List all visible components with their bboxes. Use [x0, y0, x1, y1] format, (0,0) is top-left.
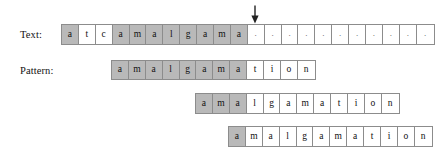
cell-l: l [280, 127, 297, 146]
cell-glyph: . [322, 29, 324, 38]
cell-glyph: l [253, 98, 256, 108]
cell-placeholder: . [366, 25, 383, 44]
cell-glyph: m [134, 29, 141, 39]
cell-glyph: o [286, 65, 291, 75]
pattern-row-2: amalgamation [195, 93, 400, 114]
cell-n: n [382, 94, 399, 113]
cell-glyph: g [185, 65, 190, 75]
cell-glyph: n [388, 98, 393, 108]
cell-glyph: a [203, 29, 207, 39]
cell-glyph: t [254, 65, 257, 75]
cell-c: c [96, 25, 113, 44]
cell-a: a [146, 25, 163, 44]
cell-i: i [348, 94, 365, 113]
cell-placeholder: . [349, 25, 366, 44]
cell-glyph: o [370, 98, 375, 108]
cell-placeholder: . [332, 25, 349, 44]
cell-a: a [231, 25, 248, 44]
cell-o: o [281, 61, 298, 79]
cell-m: m [214, 25, 231, 44]
cell-glyph: . [255, 29, 257, 38]
cell-glyph: a [353, 131, 357, 141]
cell-glyph: . [339, 29, 341, 38]
cell-m: m [213, 94, 230, 113]
string-matching-figure: Text: Pattern: atcamalgama........... am… [0, 0, 444, 154]
cell-glyph: a [320, 98, 324, 108]
cell-glyph: a [119, 29, 123, 39]
cell-glyph: n [304, 65, 309, 75]
cell-l: l [163, 25, 180, 44]
cell-glyph: g [186, 29, 191, 39]
cell-a: a [112, 61, 129, 79]
cell-a: a [314, 94, 331, 113]
cell-glyph: . [305, 29, 307, 38]
cell-glyph: i [271, 65, 274, 75]
cell-m: m [297, 94, 314, 113]
cell-a: a [196, 61, 213, 79]
cell-g: g [180, 61, 197, 79]
cell-placeholder: . [265, 25, 282, 44]
cell-a: a [229, 127, 246, 146]
cell-n: n [298, 61, 315, 79]
cell-o: o [365, 94, 382, 113]
cell-glyph: . [288, 29, 290, 38]
cell-glyph: n [421, 131, 426, 141]
text-row-label: Text: [20, 29, 42, 40]
cell-a: a [347, 127, 364, 146]
cell-glyph: m [335, 131, 342, 141]
cell-m: m [246, 127, 263, 146]
cell-glyph: i [355, 98, 358, 108]
cell-t: t [79, 25, 96, 44]
cell-a: a [62, 25, 79, 44]
cell-a: a [146, 61, 163, 79]
cell-glyph: m [218, 29, 225, 39]
cell-glyph: l [170, 29, 173, 39]
cell-glyph: . [424, 29, 426, 38]
cell-glyph: a [236, 65, 240, 75]
cell-glyph: g [302, 131, 307, 141]
cell-g: g [180, 25, 197, 44]
cell-a: a [230, 94, 247, 113]
cell-a: a [113, 25, 130, 44]
cell-glyph: a [319, 131, 323, 141]
cell-glyph: . [390, 29, 392, 38]
cell-glyph: m [250, 131, 257, 141]
cell-glyph: a [202, 98, 206, 108]
cell-glyph: m [217, 98, 224, 108]
cell-t: t [331, 94, 348, 113]
cell-glyph: . [373, 29, 375, 38]
cell-glyph: i [388, 131, 391, 141]
cell-t: t [364, 127, 381, 146]
cell-glyph: a [286, 98, 290, 108]
cell-glyph: a [118, 65, 122, 75]
cell-glyph: a [68, 29, 72, 39]
cell-placeholder: . [417, 25, 434, 44]
cell-glyph: . [272, 29, 274, 38]
cell-l: l [247, 94, 264, 113]
cell-glyph: . [356, 29, 358, 38]
cell-glyph: t [86, 29, 89, 39]
cell-glyph: o [403, 131, 408, 141]
cell-placeholder: . [315, 25, 332, 44]
cell-glyph: l [286, 131, 289, 141]
cell-i: i [381, 127, 398, 146]
cell-glyph: . [407, 29, 409, 38]
cell-glyph: a [202, 65, 206, 75]
cell-m: m [213, 61, 230, 79]
cell-i: i [264, 61, 281, 79]
cell-t: t [247, 61, 264, 79]
cell-placeholder: . [400, 25, 417, 44]
cell-a: a [230, 61, 247, 79]
cell-placeholder: . [248, 25, 265, 44]
cell-glyph: g [269, 98, 274, 108]
cell-glyph: a [237, 29, 241, 39]
cell-g: g [264, 94, 281, 113]
cell-glyph: a [269, 131, 273, 141]
cell-glyph: a [152, 65, 156, 75]
cell-n: n [415, 127, 432, 146]
pattern-row-label: Pattern: [20, 65, 53, 76]
cell-l: l [163, 61, 180, 79]
cell-glyph: m [302, 98, 309, 108]
cell-a: a [197, 25, 214, 44]
pattern-row-3: amalgamation [228, 126, 433, 147]
